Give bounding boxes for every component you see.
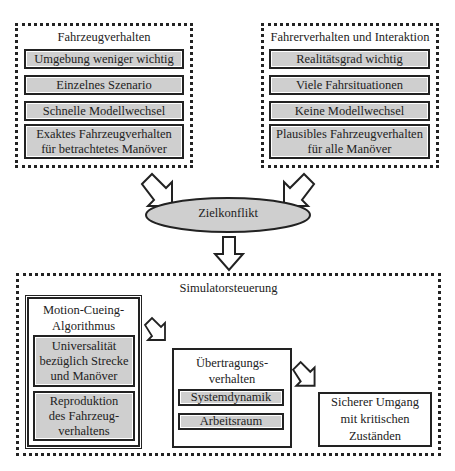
safety-label: Sicherer Umgang	[331, 394, 419, 411]
requirement-box: Plausibles Fahrzeugverhalten für alle Ma…	[269, 124, 430, 159]
requirement-label: Realitätsgrad wichtig	[296, 52, 403, 67]
requirement-box: Viele Fahrsituationen	[269, 75, 430, 95]
box-title: verhalten	[174, 371, 290, 387]
group-title: Fahrerverhalten und Interaktion	[264, 30, 436, 45]
mca-item-label: des Fahrzeug-	[49, 409, 119, 424]
requirement-box: Exaktes Fahrzeugverhalten für betrachtet…	[24, 124, 184, 159]
safety-box: Sicherer Umgang mit kritischen Zuständen	[318, 392, 432, 447]
mca-item-label: Reproduktion	[50, 394, 119, 409]
mca-item-label: und Manöver	[51, 369, 118, 384]
requirement-box: Schnelle Modellwechsel	[24, 101, 184, 121]
requirement-label: Plausibles Fahrzeugverhalten	[276, 127, 423, 142]
requirement-box: Keine Modellwechsel	[269, 101, 430, 121]
mca-item-box: Reproduktion des Fahrzeug- verhaltens	[33, 391, 135, 441]
group-title: Fahrzeugverhalten	[18, 30, 190, 45]
box-title: Übertragungs-	[174, 355, 290, 371]
requirement-label: Viele Fahrsituationen	[296, 78, 403, 93]
box-title: Motion-Cueing-	[29, 302, 138, 318]
transfer-item-label: Systemdynamik	[191, 390, 272, 405]
requirement-label: für alle Manöver	[308, 142, 392, 157]
mca-item-label: Universalität	[52, 339, 117, 354]
requirement-box: Einzelnes Szenario	[24, 75, 184, 95]
safety-label: Zuständen	[349, 428, 401, 445]
mca-item-box: Universalität bezüglich Strecke und Manö…	[33, 335, 135, 387]
requirement-label: Keine Modellwechsel	[295, 104, 404, 119]
box-title: Algorithmus	[29, 318, 138, 334]
mca-item-label: bezüglich Strecke	[39, 354, 128, 369]
safety-label: mit kritischen	[340, 411, 409, 428]
arrow-down-icon	[213, 236, 245, 272]
requirement-label: Exaktes Fahrzeugverhalten	[36, 127, 172, 142]
requirement-box: Realitätsgrad wichtig	[269, 49, 430, 69]
requirement-label: für betrachtetes Manöver	[41, 142, 167, 157]
transfer-item-box: Arbeitsraum	[178, 413, 284, 430]
arrow-down-right-icon	[143, 316, 171, 344]
requirement-label: Einzelnes Szenario	[56, 78, 151, 93]
conflict-label: Zielkonflikt	[144, 206, 312, 221]
mca-item-label: verhaltens	[58, 424, 109, 439]
arrow-down-right-icon	[291, 360, 321, 390]
requirement-label: Umgebung weniger wichtig	[34, 52, 174, 67]
transfer-item-box: Systemdynamik	[178, 389, 284, 406]
group-title: Simulatorsteuerung	[19, 281, 438, 296]
requirement-box: Umgebung weniger wichtig	[24, 49, 184, 69]
requirement-label: Schnelle Modellwechsel	[43, 104, 166, 119]
transfer-item-label: Arbeitsraum	[200, 414, 262, 429]
